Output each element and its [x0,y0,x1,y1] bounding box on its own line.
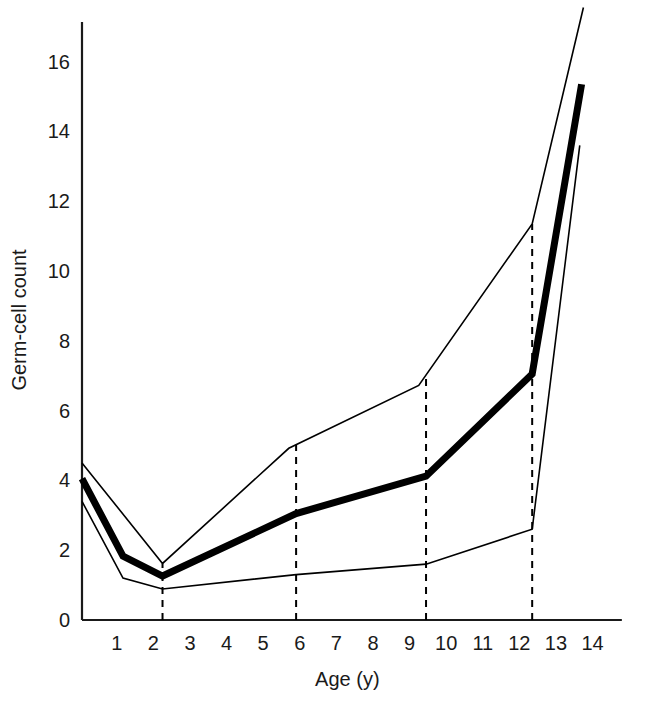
x-tick-label: 4 [221,632,232,655]
x-tick-label: 6 [294,632,305,655]
x-tick-label: 8 [367,632,378,655]
y-tick-label: 8 [26,329,70,352]
data-series-group [82,8,583,589]
y-tick-label: 12 [26,190,70,213]
x-tick-label: 13 [545,632,567,655]
x-tick-label: 5 [258,632,269,655]
x-tick-label: 11 [472,632,493,655]
x-tick-label: 14 [581,632,603,655]
x-tick-label: 10 [435,632,457,655]
germ-cell-count-chart: 0246810121416 1234567891011121314 Age (y… [0,0,649,709]
y-tick-label: 14 [26,120,70,143]
y-tick-label: 0 [26,609,70,632]
y-tick-label: 4 [26,469,70,492]
x-tick-label: 9 [404,632,415,655]
chart-plot-area [0,0,649,709]
reference-lines-group [163,224,533,620]
x-tick-label: 7 [331,632,342,655]
x-axis-title: Age (y) [315,668,379,691]
y-axis-title: Germ-cell count [8,249,31,390]
series-line-upper-bound [82,8,583,564]
x-tick-label: 12 [508,632,530,655]
y-tick-label: 16 [26,50,70,73]
x-tick-label: 2 [148,632,159,655]
series-line-median [82,84,582,576]
x-tick-label: 1 [111,632,122,655]
series-line-lower-bound [82,145,580,589]
y-tick-label: 2 [26,539,70,562]
y-tick-label: 6 [26,399,70,422]
x-tick-label: 3 [184,632,195,655]
y-tick-label: 10 [26,260,70,283]
